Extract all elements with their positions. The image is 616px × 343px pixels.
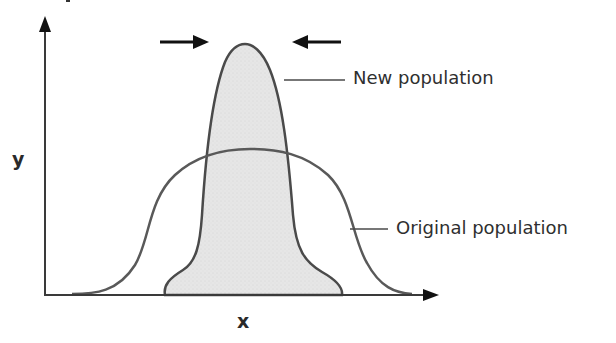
arrow-right-icon (160, 35, 209, 49)
original-population-label: Original population (396, 219, 568, 237)
new-population-curve (165, 44, 342, 295)
distribution-diagram (0, 0, 616, 343)
y-axis-label: y (12, 150, 24, 169)
y-axis (39, 16, 51, 296)
x-axis-label: x (237, 312, 249, 331)
new-population-label: New population (353, 69, 494, 87)
arrow-left-icon (292, 35, 341, 49)
